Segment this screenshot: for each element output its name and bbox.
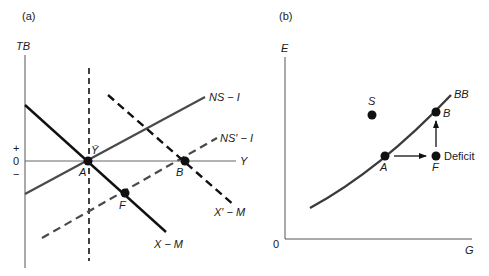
- point-f-b-label: F: [432, 161, 440, 173]
- point-b: [181, 157, 190, 166]
- point-a-b: [381, 152, 390, 161]
- g-axis-label: G: [465, 244, 474, 256]
- tick-plus: +: [13, 142, 19, 154]
- tick-minus: −: [13, 168, 19, 180]
- tb-axis-label: TB: [16, 40, 30, 52]
- tick-zero: 0: [13, 155, 19, 167]
- deficit-label: Deficit: [444, 150, 475, 162]
- point-f-b: [432, 152, 441, 161]
- point-a-label: A: [78, 166, 86, 178]
- panel-a-label: (a): [22, 10, 35, 22]
- y-axis-label: Y: [240, 155, 248, 167]
- panel-b-label: (b): [279, 10, 292, 22]
- point-s-label: S: [368, 95, 376, 107]
- panel-a: (a) TB Y + 0 − Ȳ NS − I NS′ − I X − M X′…: [13, 10, 253, 268]
- x-prime-m-label: X′ − M: [213, 206, 246, 218]
- ns-prime-i-label: NS′ − I: [220, 132, 253, 144]
- ns-prime-i-curve: [42, 138, 217, 238]
- point-a: [84, 157, 93, 166]
- panel-b: (b) E G 0 BB S A F Deficit B: [273, 10, 475, 256]
- point-a-b-label: A: [379, 161, 387, 173]
- point-b-b: [432, 108, 441, 117]
- ns-i-curve: [25, 97, 205, 194]
- bb-label: BB: [454, 88, 469, 100]
- point-b-b-label: B: [443, 107, 450, 119]
- point-s: [368, 111, 377, 120]
- e-axis-label: E: [281, 42, 289, 54]
- point-b-label: B: [176, 166, 183, 178]
- x-m-curve: [25, 105, 166, 232]
- point-f: [121, 189, 130, 198]
- x-m-label: X − M: [153, 238, 184, 250]
- figure: (a) TB Y + 0 − Ȳ NS − I NS′ − I X − M X′…: [0, 0, 489, 276]
- ns-i-label: NS − I: [209, 91, 240, 103]
- point-f-label: F: [119, 199, 127, 211]
- origin-label: 0: [273, 238, 279, 250]
- bb-curve: [310, 95, 451, 208]
